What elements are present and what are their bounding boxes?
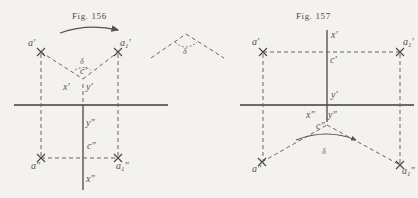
detached-right-leg bbox=[186, 34, 224, 58]
label-a1-prime: a1′ bbox=[403, 37, 414, 49]
label-x-double: x″ bbox=[86, 174, 95, 184]
label-a-prime: a′ bbox=[28, 38, 35, 48]
label-x-prime: x′ bbox=[331, 30, 338, 40]
fig-156-title: Fig. 156 bbox=[72, 11, 107, 21]
fig-157-geometry bbox=[240, 30, 414, 169]
delta-angle-label: δ bbox=[80, 58, 84, 66]
label-a-prime: a′ bbox=[252, 37, 259, 47]
label-a1-double: a1″ bbox=[116, 161, 129, 173]
label-a1-double: a1″ bbox=[402, 166, 415, 178]
label-c-prime: c′ bbox=[330, 55, 337, 65]
drawing-canvas bbox=[0, 0, 418, 198]
label-y-double: y″ bbox=[328, 110, 337, 120]
label-a1-prime: a1′ bbox=[120, 38, 131, 50]
segment-a-c-prime bbox=[41, 52, 83, 79]
segment-c-a1-prime bbox=[83, 52, 118, 79]
figure-plate: Fig. 156 a′ a1′ c′ x′ y′ y″ c″ a″ a1″ x″… bbox=[0, 0, 418, 198]
delta-arc-arrow bbox=[296, 134, 356, 140]
label-y-double: y″ bbox=[86, 118, 95, 128]
label-x-double: x″ bbox=[306, 110, 315, 120]
detached-delta-angle-label: δ bbox=[183, 48, 187, 56]
label-y-prime: y′ bbox=[86, 82, 93, 92]
segment-c-a1-double bbox=[327, 125, 400, 165]
label-c-double: c″ bbox=[316, 121, 325, 131]
label-a-double: a″ bbox=[252, 164, 261, 174]
label-y-prime: y′ bbox=[331, 90, 338, 100]
detached-angle-geometry bbox=[151, 34, 224, 58]
rotation-arrow bbox=[60, 27, 118, 33]
label-x-prime: x′ bbox=[63, 82, 70, 92]
delta-angle-label: δ bbox=[322, 148, 326, 156]
label-c-prime: c′ bbox=[80, 66, 87, 76]
detached-left-leg bbox=[151, 34, 186, 58]
fig-157-title: Fig. 157 bbox=[296, 11, 331, 21]
label-c-double: c″ bbox=[87, 141, 96, 151]
label-a-double: a″ bbox=[31, 161, 40, 171]
